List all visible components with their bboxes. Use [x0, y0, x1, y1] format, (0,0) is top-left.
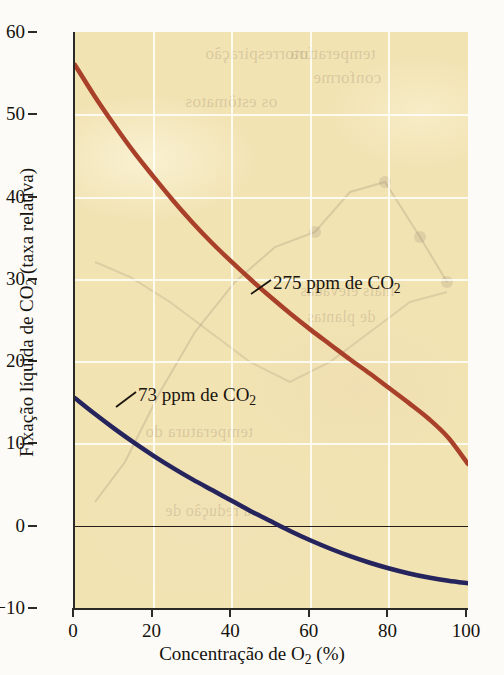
- y-axis-tick: [28, 31, 37, 33]
- x-axis-tick: [465, 608, 467, 617]
- y-axis-title-sub: 2: [24, 279, 39, 286]
- x-axis-tick: [308, 608, 310, 617]
- x-axis-tick-label: 80: [378, 620, 397, 642]
- x-axis-tick-label: 20: [142, 620, 161, 642]
- x-axis-title: Concentração de O2 (%): [0, 643, 504, 668]
- series-curves: [75, 32, 468, 608]
- y-axis-tick: [28, 525, 37, 527]
- x-axis-title-post: (%): [312, 643, 345, 664]
- series-line-73ppm: [75, 398, 468, 583]
- y-axis-tick-label: −10: [0, 597, 25, 619]
- y-axis-title-post: (taxa relativa): [16, 168, 37, 279]
- series-label-73ppm-sub: 2: [249, 393, 256, 408]
- y-axis-tick: [28, 607, 37, 609]
- series-label-73ppm-text: 73 ppm de CO: [138, 384, 249, 405]
- x-axis-tick-label: 40: [221, 620, 240, 642]
- series-line-275ppm: [75, 65, 468, 464]
- x-axis-title-sub: 2: [305, 652, 312, 667]
- figure-panel: temperatura conforme fotorrespiração os …: [0, 0, 504, 675]
- x-axis-tick: [72, 608, 74, 617]
- series-label-275ppm: 275 ppm de CO2: [273, 272, 401, 297]
- x-axis-tick-label: 0: [68, 620, 78, 642]
- y-axis-tick-label: 60: [6, 21, 25, 43]
- x-axis-tick: [151, 608, 153, 617]
- leader-line-73ppm: [116, 392, 136, 407]
- x-axis-title-pre: Concentração de O: [159, 643, 305, 664]
- series-label-275ppm-text: 275 ppm de CO: [273, 272, 394, 293]
- x-axis-tick-label: 100: [452, 620, 481, 642]
- series-label-275ppm-sub: 2: [394, 281, 401, 296]
- x-axis-tick: [386, 608, 388, 617]
- y-axis-title-pre: Fixação líquida de CO: [16, 285, 37, 457]
- gridline-horizontal: [75, 608, 468, 610]
- y-axis-tick: [28, 113, 37, 115]
- y-axis-title: Fixação líquida de CO2 (taxa relativa): [16, 122, 41, 502]
- plot-area: temperatura conforme fotorrespiração os …: [73, 32, 468, 610]
- x-axis-tick-label: 60: [299, 620, 318, 642]
- series-label-73ppm: 73 ppm de CO2: [138, 384, 256, 409]
- y-axis-tick-label: 0: [16, 515, 26, 537]
- x-axis-tick: [229, 608, 231, 617]
